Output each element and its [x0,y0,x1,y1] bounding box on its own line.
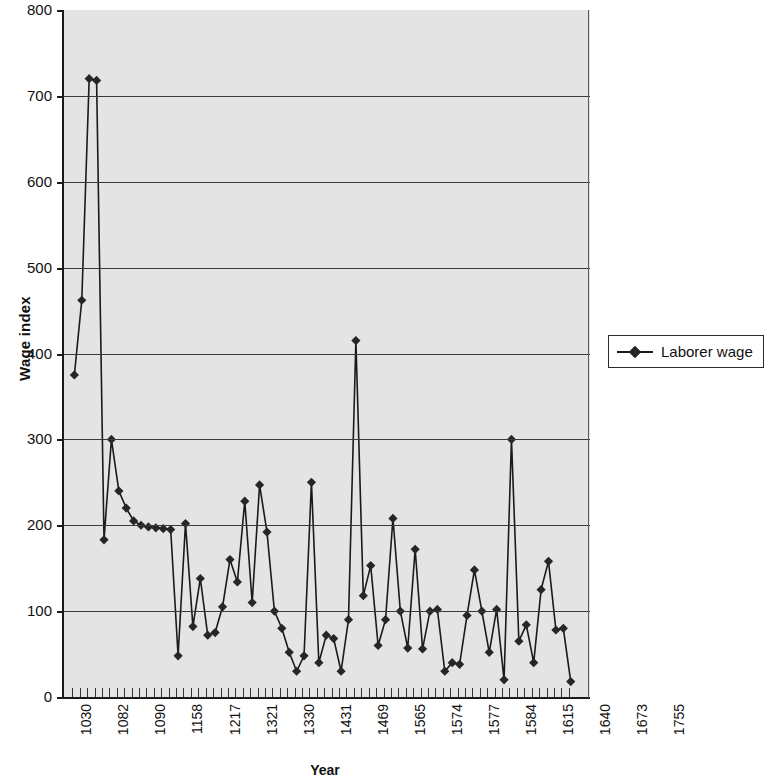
data-point-marker [566,677,575,686]
data-point-marker [307,478,316,487]
data-point-marker [99,535,108,544]
y-axis-tick [57,439,64,441]
x-axis-tick [191,688,192,697]
data-point-marker [262,528,271,537]
x-axis-tick [428,688,429,697]
series-line [74,79,570,682]
data-point-marker [85,74,94,83]
x-axis-tick [109,688,110,697]
data-point-marker [203,631,212,640]
data-point-marker [92,76,101,85]
y-axis-tick [57,96,64,98]
data-point-marker [77,296,86,305]
x-tick-label: 1469 [375,704,391,735]
data-point-marker [537,585,546,594]
x-axis-tick [421,688,422,697]
x-axis-tick [72,688,73,697]
x-axis-tick [480,688,481,697]
chart-legend: Laborer wage [608,335,764,368]
x-axis-tick [324,688,325,697]
data-point-marker [181,519,190,528]
y-axis-tick [57,697,64,699]
data-point-marker [285,648,294,657]
data-point-marker [292,667,301,676]
x-axis-title: Year [62,762,588,778]
x-axis-tick [443,688,444,697]
x-tick-label: 1584 [523,704,539,735]
data-point-marker [485,648,494,657]
data-point-marker [366,561,375,570]
x-tick-label: 1574 [449,704,465,735]
x-axis-tick [235,688,236,697]
x-axis-tick [287,688,288,697]
x-axis-tick [391,688,392,697]
x-axis-tick [206,688,207,697]
data-point-marker [114,486,123,495]
gridline [64,268,590,269]
y-axis-tick [57,268,64,270]
data-point-marker [225,555,234,564]
y-tick-label: 0 [8,688,52,705]
data-point-marker [218,602,227,611]
x-axis-tick [339,688,340,697]
y-tick-label: 200 [8,516,52,533]
x-axis-tick [502,688,503,697]
x-tick-label: 1217 [227,704,243,735]
x-axis-tick [87,688,88,697]
x-axis-tick [176,688,177,697]
x-axis-tick [554,688,555,697]
x-axis-tick [487,688,488,697]
x-axis-tick [295,688,296,697]
x-axis-tick [458,688,459,697]
x-axis-tick [265,688,266,697]
data-point-marker [374,641,383,650]
x-axis-tick [102,688,103,697]
data-point-marker [403,643,412,652]
x-axis-tick [317,688,318,697]
y-tick-label: 800 [8,1,52,18]
data-point-marker [433,605,442,614]
y-axis-tick [57,10,64,12]
x-tick-label: 1330 [301,704,317,735]
data-point-marker [211,628,220,637]
x-axis-tick [384,688,385,697]
x-axis-tick [495,688,496,697]
x-axis-tick [406,688,407,697]
data-point-marker [381,615,390,624]
x-tick-label: 1321 [264,704,280,735]
data-point-marker [196,574,205,583]
x-axis-tick [198,688,199,697]
x-axis-tick [472,688,473,697]
x-axis-tick [80,688,81,697]
x-axis-tick [450,688,451,697]
data-point-marker [336,667,345,676]
data-point-marker [255,480,264,489]
x-axis-tick [509,688,510,697]
data-point-marker [359,591,368,600]
plot-right-border [588,10,589,698]
y-axis-tick-labels: 0100200300400500600700800 [0,0,52,781]
x-axis-tick [161,688,162,697]
x-axis-tick [95,688,96,697]
chart-canvas: Wage index 0100200300400500600700800 103… [0,0,768,781]
x-axis-tick [221,688,222,697]
x-axis-tick [228,688,229,697]
data-point-marker [492,605,501,614]
x-tick-label: 1577 [486,704,502,735]
data-point-marker [455,660,464,669]
y-tick-label: 400 [8,345,52,362]
data-point-marker [70,370,79,379]
data-point-marker [248,598,257,607]
y-tick-label: 500 [8,259,52,276]
y-tick-label: 100 [8,602,52,619]
x-axis-tick [124,688,125,697]
y-axis-tick [57,354,64,356]
x-axis-tick [517,688,518,697]
x-axis-tick [465,688,466,697]
data-point-marker [299,651,308,660]
data-point-marker [344,615,353,624]
x-tick-label: 1431 [338,704,354,735]
data-point-marker [551,625,560,634]
x-tick-label: 1640 [597,704,613,735]
x-axis-tick [280,688,281,697]
